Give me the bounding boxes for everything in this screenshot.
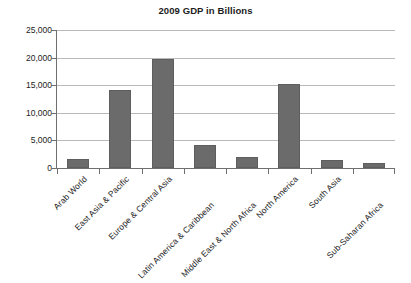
bar[interactable] — [152, 59, 174, 168]
bar-slot — [184, 30, 226, 168]
y-axis-tick-marks — [0, 30, 57, 168]
plot-area — [57, 30, 395, 168]
x-axis-category-label: North America — [254, 174, 300, 220]
x-axis-category-label: Latin America & Caribbean — [136, 200, 216, 280]
x-axis-category-label: Sub-Saharan Africa — [324, 200, 384, 260]
bar-slot — [142, 30, 184, 168]
bar[interactable] — [278, 84, 300, 168]
bar-chart: 2009 GDP in Billions 25,00020,00015,0001… — [0, 0, 411, 283]
bar[interactable] — [236, 157, 258, 168]
bar-slot — [268, 30, 310, 168]
chart-title: 2009 GDP in Billions — [0, 5, 411, 16]
bar-slot — [311, 30, 353, 168]
x-axis-category-labels: Arab WorldEast Asia & PacificEurope & Ce… — [57, 174, 411, 283]
x-axis-category-label: Middle East & North Africa — [179, 200, 258, 279]
bar-slot — [353, 30, 395, 168]
bar-slot — [99, 30, 141, 168]
bar[interactable] — [194, 145, 216, 168]
x-axis-category-label: Arab World — [51, 174, 89, 212]
bar[interactable] — [321, 160, 343, 168]
bar[interactable] — [363, 163, 385, 168]
bar-slot — [226, 30, 268, 168]
bar[interactable] — [67, 159, 89, 168]
x-axis-category-label: South Asia — [306, 174, 343, 211]
bar[interactable] — [109, 90, 131, 168]
bar-slot — [57, 30, 99, 168]
